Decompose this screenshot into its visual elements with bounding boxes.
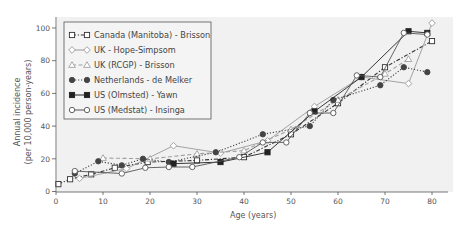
x-tick-label: 60 [333,197,343,206]
data-point [68,177,73,182]
legend-marker-start [69,77,74,82]
data-point [237,154,242,159]
data-point [307,123,312,128]
data-point [284,140,289,145]
data-point [260,132,265,137]
data-point [119,163,124,168]
legend-label: Canada (Manitoba) - Brisson [94,30,210,40]
y-tick-label: 40 [40,122,50,131]
x-axis-title: Age (years) [230,211,276,220]
x-tick-label: 0 [54,197,59,206]
data-point [96,159,101,164]
y-tick-label: 0 [45,187,50,196]
data-point [194,158,199,163]
x-tick-label: 50 [286,197,296,206]
legend-marker-end [84,32,89,37]
legend: Canada (Manitoba) - BrissonUK - Hope-Sim… [64,22,211,119]
legend-marker-start [69,92,74,97]
data-point [143,165,148,170]
data-point [425,32,430,37]
data-point [378,83,383,88]
data-point [307,110,312,115]
data-point [429,38,434,43]
x-tick-label: 20 [145,197,155,206]
legend-label: UK - Hope-Simpsom [94,45,176,55]
data-point [140,156,145,161]
x-tick-label: 40 [239,197,249,206]
legend-label: US (Medstat) - Insinga [94,105,185,115]
x-tick-label: 10 [98,197,108,206]
y-axis-title-line1: Annual incidence [13,78,22,147]
legend-marker-end [84,107,89,112]
data-point [171,161,176,166]
data-point [331,110,336,115]
y-axis-title-line2: (per 10,000 person-years) [24,60,33,165]
data-point [260,140,265,145]
data-point [56,182,61,187]
data-point [378,74,383,79]
data-point [401,65,406,70]
y-tick-label: 60 [40,89,50,98]
legend-label: US (Olmsted) - Yawn [94,90,178,100]
data-point [218,159,223,164]
x-tick-label: 30 [192,197,202,206]
x-tick-label: 80 [427,197,437,206]
legend-marker-start [69,107,74,112]
y-tick-label: 100 [36,24,51,33]
data-point [265,150,270,155]
data-point [401,30,406,35]
data-point [190,164,195,169]
data-point [119,171,124,176]
data-point [213,150,218,155]
data-point [354,73,359,78]
data-point [112,165,117,170]
y-tick-label: 80 [40,56,50,65]
data-point [425,69,430,74]
data-point [166,164,171,169]
chart-canvas: 01020304050607080020406080100 Canada (Ma… [0,0,463,229]
legend-label: Netherlands - de Melker [94,75,193,85]
legend-label: UK (RCGP) - Brisson [94,60,175,70]
y-axis-title: Annual incidence (per 10,000 person-year… [13,60,33,165]
legend-marker-end [84,92,89,97]
data-point [72,168,77,173]
x-tick-label: 70 [380,197,390,206]
y-tick-label: 20 [40,155,50,164]
legend-marker-start [69,32,74,37]
legend-marker-end [84,77,89,82]
